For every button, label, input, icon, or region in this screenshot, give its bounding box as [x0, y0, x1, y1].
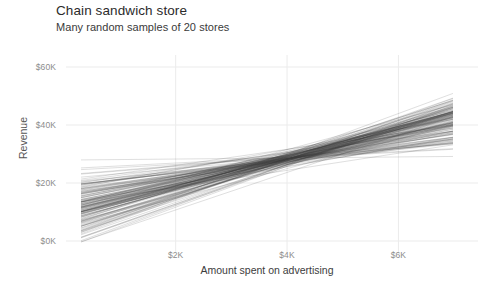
chart-container: Chain sandwich store Many random samples…	[0, 0, 491, 283]
x-tick-2k: $2K	[151, 250, 201, 260]
regression-line	[81, 125, 453, 186]
x-tick-4k: $4K	[262, 250, 312, 260]
x-tick-6k: $6K	[373, 250, 423, 260]
x-axis-label: Amount spent on advertising	[81, 264, 453, 276]
y-tick-60k: $60K	[14, 62, 56, 72]
regression-line	[81, 105, 453, 242]
regression-line	[81, 113, 453, 212]
plot-area	[0, 0, 491, 283]
regression-line-bundle	[81, 93, 453, 242]
regression-line	[81, 124, 453, 200]
regression-line	[81, 131, 453, 186]
y-axis-label: Revenue	[17, 103, 29, 173]
y-tick-0k: $0K	[14, 236, 56, 246]
regression-line	[81, 133, 453, 189]
y-tick-20k: $20K	[14, 178, 56, 188]
regression-line	[81, 112, 453, 231]
regression-line	[81, 100, 453, 219]
